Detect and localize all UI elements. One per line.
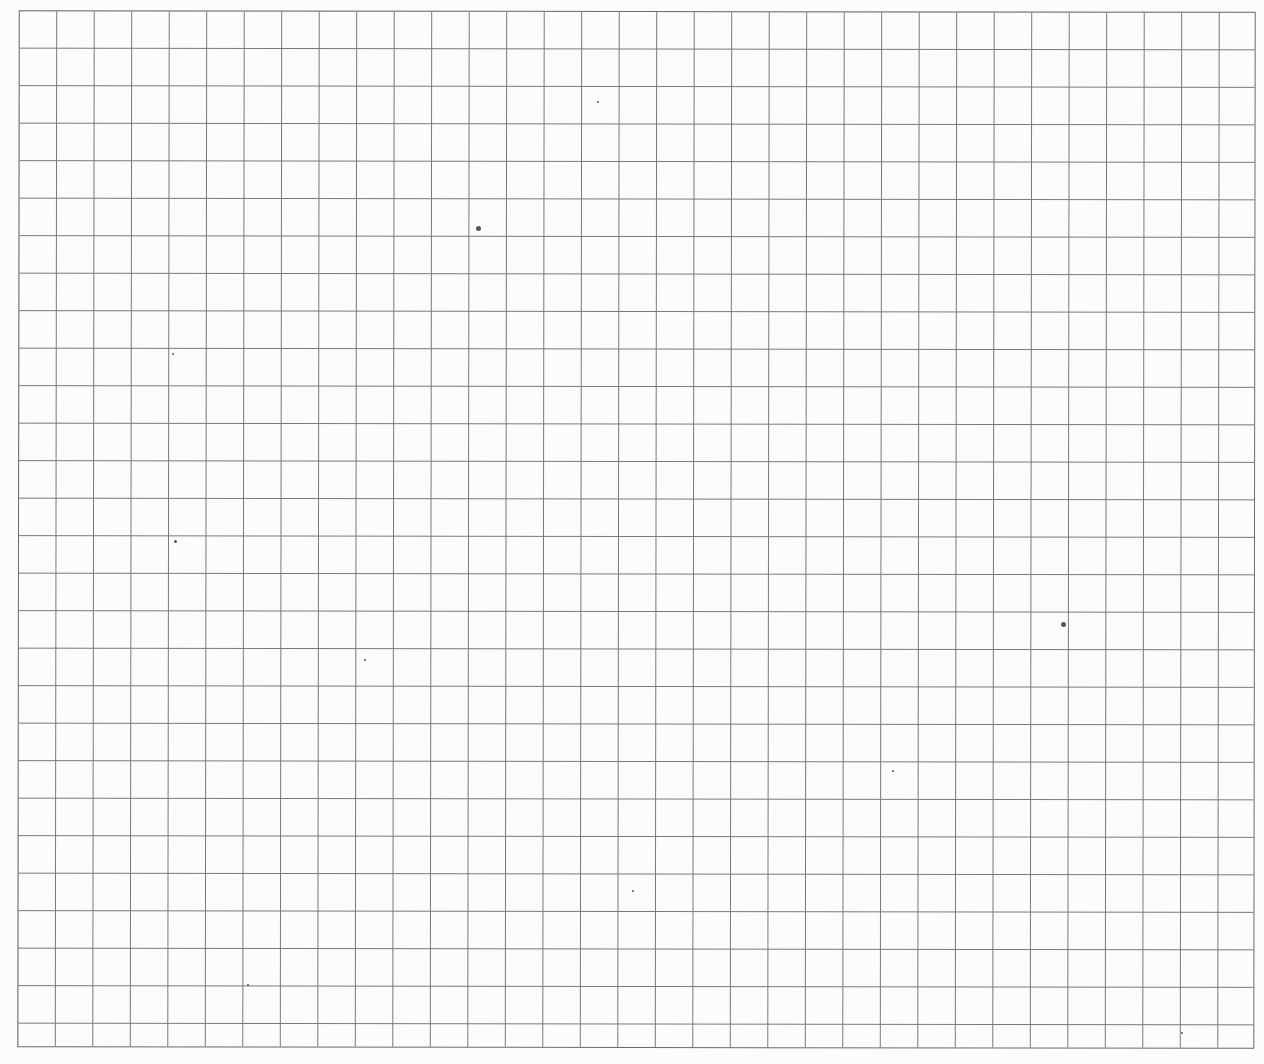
speck (476, 226, 481, 231)
speck (1061, 622, 1066, 627)
speck (247, 984, 249, 986)
speck (597, 101, 599, 103)
speck (174, 540, 177, 543)
speck (632, 890, 634, 892)
grid-lines (17, 10, 1255, 1049)
graph-paper-sheet (0, 0, 1264, 1064)
speck (364, 659, 366, 661)
speck (892, 770, 894, 772)
